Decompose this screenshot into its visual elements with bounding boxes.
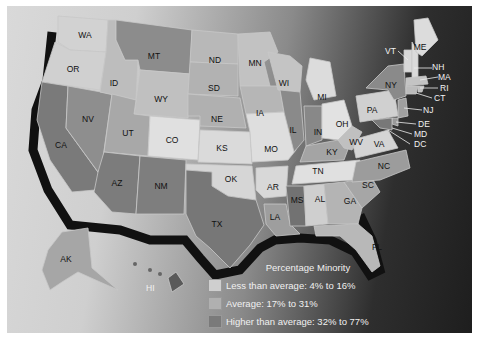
- state-MD[interactable]: [372, 118, 392, 130]
- label-MT: MT: [148, 51, 160, 61]
- label-AL: AL: [315, 194, 326, 204]
- state-RI[interactable]: [418, 86, 424, 92]
- label-OR: OR: [67, 64, 80, 74]
- label-PA: PA: [367, 105, 378, 115]
- legend-item-high: Higher than average: 32% to 77%: [208, 313, 408, 329]
- label-LA: LA: [270, 212, 281, 222]
- label-HI: HI: [146, 283, 155, 293]
- label-MO: MO: [264, 144, 278, 154]
- legend-label-avg: Average: 17% to 31%: [226, 298, 318, 309]
- label-DE: DE: [418, 119, 430, 129]
- label-VA: VA: [374, 139, 385, 149]
- legend-swatch-avg: [208, 297, 222, 310]
- label-CT: CT: [434, 93, 445, 103]
- label-WY: WY: [154, 94, 168, 104]
- label-SC: SC: [362, 180, 374, 190]
- label-MI: MI: [317, 92, 326, 102]
- label-MA: MA: [438, 72, 451, 82]
- state-VT[interactable]: [404, 50, 412, 72]
- label-UT: UT: [122, 128, 133, 138]
- label-MN: MN: [248, 58, 261, 68]
- label-NM: NM: [154, 181, 167, 191]
- state-MS[interactable]: [286, 186, 306, 226]
- hi-island: [133, 262, 137, 266]
- label-IA: IA: [256, 108, 264, 118]
- label-KY: KY: [326, 147, 338, 157]
- label-WA: WA: [78, 30, 92, 40]
- state-TN[interactable]: [292, 160, 360, 184]
- label-NE: NE: [211, 114, 223, 124]
- label-ID: ID: [110, 78, 119, 88]
- label-RI: RI: [440, 83, 449, 93]
- label-WI: WI: [279, 78, 289, 88]
- state-HI[interactable]: [168, 272, 184, 292]
- state-MA[interactable]: [406, 76, 428, 86]
- label-MS: MS: [291, 195, 304, 205]
- legend-item-avg: Average: 17% to 31%: [208, 295, 408, 311]
- label-OH: OH: [336, 119, 349, 129]
- state-AK[interactable]: [42, 228, 118, 290]
- label-KS: KS: [216, 143, 228, 153]
- label-ME: ME: [414, 42, 427, 52]
- legend-label-low: Less than average: 4% to 16%: [226, 280, 355, 291]
- label-NY: NY: [385, 80, 397, 90]
- label-NV: NV: [82, 114, 94, 124]
- label-DC: DC: [414, 139, 426, 149]
- label-MD: MD: [414, 129, 427, 139]
- label-WV: WV: [349, 137, 363, 147]
- label-NH: NH: [432, 62, 444, 72]
- label-CO: CO: [166, 135, 179, 145]
- label-AZ: AZ: [112, 178, 123, 188]
- label-AR: AR: [267, 182, 279, 192]
- label-CA: CA: [55, 140, 67, 150]
- label-ND: ND: [209, 55, 221, 65]
- label-SD: SD: [208, 83, 220, 93]
- legend-title: Percentage Minority: [208, 262, 408, 273]
- label-GA: GA: [344, 196, 357, 206]
- label-IL: IL: [289, 125, 296, 135]
- label-TX: TX: [212, 219, 223, 229]
- label-OK: OK: [225, 174, 238, 184]
- legend-swatch-high: [208, 315, 222, 328]
- label-IN: IN: [314, 127, 323, 137]
- map-legend: Percentage Minority Less than average: 4…: [208, 262, 408, 331]
- state-IN[interactable]: [304, 106, 322, 146]
- label-AK: AK: [60, 254, 72, 264]
- label-TN: TN: [312, 166, 323, 176]
- legend-swatch-low: [208, 279, 222, 292]
- legend-label-high: Higher than average: 32% to 77%: [226, 316, 369, 327]
- label-NC: NC: [378, 161, 390, 171]
- label-VT: VT: [385, 46, 396, 56]
- legend-item-low: Less than average: 4% to 16%: [208, 277, 408, 293]
- label-NJ: NJ: [423, 105, 433, 115]
- hi-island: [148, 268, 152, 272]
- label-FL: FL: [372, 242, 382, 252]
- hi-island: [158, 272, 162, 276]
